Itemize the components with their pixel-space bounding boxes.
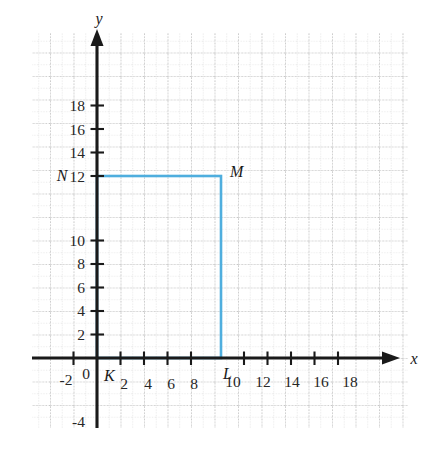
coordinate-plane-figure: -2 0 2 4 6 8 10 12 14 16 18 12 10 8 6 4 … bbox=[0, 0, 441, 450]
y-tick-label-8: 8 bbox=[77, 255, 85, 272]
x-tick-label-16: 16 bbox=[313, 373, 329, 390]
x-tick-label-0: 0 bbox=[82, 365, 90, 382]
y-axis-label: y bbox=[93, 10, 103, 28]
x-tick-label-18: 18 bbox=[342, 373, 358, 390]
y-tick-label-6: 6 bbox=[77, 279, 85, 296]
y-tick-label-2: 2 bbox=[77, 326, 85, 343]
y-tick-label--4: -4 bbox=[72, 413, 85, 430]
y-tick-label-14: 14 bbox=[70, 144, 86, 161]
x-tick-label--2: -2 bbox=[60, 371, 73, 388]
point-label-k: K bbox=[103, 367, 116, 384]
y-tick-label-10: 10 bbox=[70, 232, 86, 249]
graph-canvas: -2 0 2 4 6 8 10 12 14 16 18 12 10 8 6 4 … bbox=[0, 0, 441, 450]
x-tick-label-6: 6 bbox=[167, 375, 175, 392]
point-label-l: L bbox=[222, 365, 232, 382]
x-tick-label-2: 2 bbox=[120, 375, 128, 392]
x-axis-label: x bbox=[409, 350, 417, 367]
y-tick-label-18: 18 bbox=[70, 97, 86, 114]
point-label-n: N bbox=[56, 167, 69, 184]
y-tick-label-16: 16 bbox=[70, 121, 86, 138]
y-tick-label-4: 4 bbox=[77, 302, 85, 319]
x-tick-label-12: 12 bbox=[255, 373, 271, 390]
point-label-m: M bbox=[229, 163, 245, 180]
x-tick-label-4: 4 bbox=[144, 375, 152, 392]
y-tick-label-12: 12 bbox=[70, 168, 86, 185]
x-tick-label-14: 14 bbox=[284, 373, 300, 390]
x-tick-label-8: 8 bbox=[190, 375, 198, 392]
